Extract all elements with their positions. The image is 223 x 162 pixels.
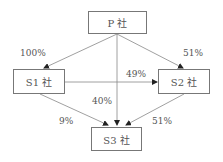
edge-label-s2-s3: 51% bbox=[152, 116, 172, 126]
node-p: P 社 bbox=[88, 11, 147, 34]
node-s3-label: S3 社 bbox=[103, 132, 129, 147]
edge-label-p-s3: 40% bbox=[92, 96, 112, 106]
node-s3: S3 社 bbox=[91, 127, 142, 151]
edge-label-p-s2: 51% bbox=[183, 48, 203, 58]
edge-p-s2 bbox=[117, 34, 183, 68]
edge-label-p-s1: 100% bbox=[20, 48, 46, 58]
edge-p-s1 bbox=[44, 34, 117, 68]
node-p-label: P 社 bbox=[108, 15, 128, 30]
node-s1-label: S1 社 bbox=[26, 74, 52, 89]
edge-label-s1-s3: 9% bbox=[59, 116, 73, 126]
node-s2: S2 社 bbox=[158, 69, 210, 94]
edge-label-s1-s2: 49% bbox=[126, 69, 146, 79]
node-s1: S1 社 bbox=[13, 69, 65, 94]
node-s2-label: S2 社 bbox=[171, 74, 197, 89]
